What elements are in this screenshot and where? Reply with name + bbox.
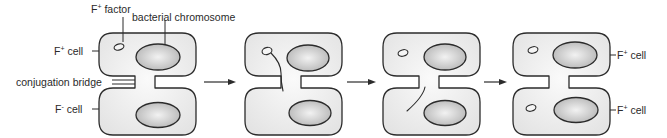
chromosome-top: [553, 42, 597, 68]
conjugation-bridge-label: conjugation bridge: [16, 76, 102, 88]
f-plus-cell-right-top-label: F+ cell: [617, 49, 646, 61]
panel-2: [245, 33, 342, 135]
conjugation-diagram: F+ factor bacterial chromosome F+ cell c…: [0, 0, 667, 138]
panel-3: [383, 33, 480, 135]
chromosome-top: [136, 44, 180, 70]
f-factor-label: F+ factor: [91, 3, 131, 15]
chromosome-bottom: [424, 101, 466, 126]
chromosome-top: [424, 44, 466, 70]
chromosome-bottom: [554, 98, 598, 123]
chromosome-top: [287, 45, 329, 71]
chromosome-bottom: [289, 101, 331, 126]
chromosome-bottom: [136, 103, 180, 128]
f-plus-cell-right-bottom-label: F+ cell: [617, 104, 646, 116]
arrow-head-icon: [228, 79, 236, 85]
arrow-head-icon: [368, 79, 376, 85]
panel-4: [513, 33, 610, 135]
bacterial-chromosome-label: bacterial chromosome: [132, 11, 235, 23]
f-plus-cell-label: F+ cell: [54, 45, 83, 57]
arrow-1-to-2: [204, 79, 236, 85]
f-minus-cell-label: F- cell: [55, 103, 82, 115]
arrow-2-to-3: [347, 79, 376, 85]
arrow-3-to-4: [484, 79, 507, 85]
arrow-head-icon: [499, 79, 507, 85]
